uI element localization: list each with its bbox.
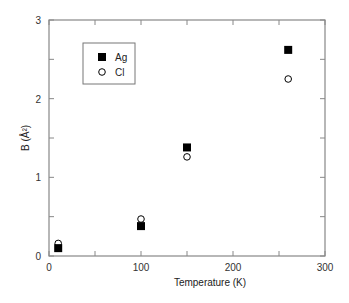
data-point-cl (285, 76, 292, 83)
legend-marker-ag (98, 53, 106, 61)
legend-marker-cl (99, 69, 106, 76)
y-tick-label: 2 (35, 94, 41, 105)
y-tick-label: 0 (35, 251, 41, 262)
y-tick-label: 1 (35, 172, 41, 183)
y-axis-title: B (Å²) (19, 125, 31, 151)
legend-label-cl: Cl (115, 67, 124, 78)
data-point-ag (137, 222, 145, 230)
legend-label-ag: Ag (115, 52, 127, 63)
x-tick-label: 200 (225, 262, 242, 273)
data-point-cl (184, 154, 191, 161)
data-point-cl (138, 216, 145, 223)
x-axis-title: Temperature (K) (174, 277, 246, 288)
data-point-ag (54, 244, 62, 252)
legend: AgCl (83, 43, 135, 84)
data-point-ag (183, 143, 191, 151)
x-tick-label: 0 (46, 262, 52, 273)
scatter-chart: 01002003000123 AgCl Temperature (K) B (Å… (0, 0, 349, 303)
data-point-ag (284, 46, 292, 54)
legend-box (83, 43, 135, 84)
x-tick-label: 100 (133, 262, 150, 273)
x-tick-label: 300 (317, 262, 334, 273)
y-tick-label: 3 (35, 15, 41, 26)
